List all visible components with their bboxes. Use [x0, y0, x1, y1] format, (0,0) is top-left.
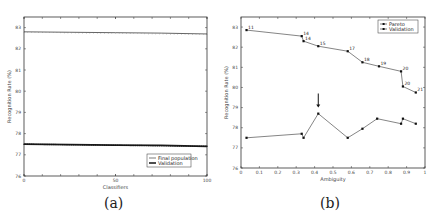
x-tick-label: 50	[113, 178, 119, 183]
caption-a: (a)	[104, 195, 123, 211]
x-tick-label: 0.8	[385, 170, 392, 175]
series-final-population	[24, 32, 208, 35]
y-tick-label: 78	[15, 131, 21, 136]
series-pareto: 11141415171819202021	[245, 25, 423, 94]
data-point	[400, 123, 402, 125]
x-axis-label: Classifiers	[103, 184, 129, 190]
x-tick-label: 0.1	[256, 170, 263, 175]
data-point	[415, 123, 417, 125]
y-tick-label: 79	[15, 110, 21, 115]
point-label: 17	[349, 46, 355, 51]
data-point	[376, 118, 378, 120]
plot-frame	[241, 17, 425, 168]
y-tick-label: 77	[15, 152, 21, 157]
legend-entry: Validation	[158, 160, 183, 166]
x-tick-label: 0.9	[403, 170, 410, 175]
point-label: 21	[417, 87, 423, 92]
data-point	[301, 133, 303, 135]
y-tick-label: 79	[232, 105, 238, 110]
data-point	[302, 137, 304, 139]
point-label: 20	[404, 81, 410, 86]
data-point	[317, 113, 319, 115]
series-validation	[245, 113, 416, 139]
y-tick-label: 78	[232, 125, 238, 130]
point-label: 19	[381, 61, 387, 66]
y-tick-label: 82	[232, 45, 238, 50]
y-tick-label: 80	[232, 85, 238, 90]
point-label: 15	[320, 41, 326, 46]
data-point	[361, 128, 363, 130]
chart-panel-b: 767778798081828300.10.20.30.40.50.60.70.…	[220, 0, 440, 221]
legend: ParetoValidation	[378, 20, 418, 33]
legend: Final populationValidation	[147, 154, 198, 167]
point-label: 18	[364, 57, 370, 62]
series-validation	[23, 144, 207, 148]
x-tick-label: 0.3	[293, 170, 300, 175]
x-tick-label: 0.4	[311, 170, 318, 175]
y-tick-label: 76	[232, 166, 238, 171]
x-tick-label: 1	[424, 170, 427, 175]
chart-b-plot: 767778798081828300.10.20.30.40.50.60.70.…	[220, 0, 440, 195]
x-tick-label: 0.7	[366, 170, 373, 175]
y-tick-label: 81	[15, 68, 21, 73]
x-axis-label: Ambiguity	[320, 176, 346, 183]
point-label: 11	[248, 25, 254, 30]
x-tick-label: 0	[240, 170, 243, 175]
point-label: 14	[305, 36, 311, 41]
x-tick-label: 0.6	[348, 170, 355, 175]
point-label: 20	[403, 66, 409, 71]
legend-entry: Validation	[389, 26, 414, 32]
x-tick-label: 0.2	[274, 170, 281, 175]
y-tick-label: 83	[232, 25, 238, 30]
y-tick-label: 82	[15, 46, 21, 51]
caption-b: (b)	[320, 195, 340, 211]
y-tick-label: 76	[15, 174, 21, 179]
data-point	[347, 137, 349, 139]
y-tick-label: 77	[232, 145, 238, 150]
y-tick-label: 83	[15, 25, 21, 30]
x-tick-label: 100	[203, 178, 212, 183]
y-axis-label: Recognition Rate (%)	[6, 70, 13, 123]
x-tick-label: 0.5	[329, 170, 336, 175]
arrow-head-icon	[316, 105, 320, 108]
plot-frame	[24, 17, 207, 176]
chart-panel-a: 7677787980818283050100ClassifiersRecogni…	[0, 0, 220, 221]
y-axis-label: Recognition Rate (%)	[223, 66, 230, 119]
chart-a-plot: 7677787980818283050100ClassifiersRecogni…	[0, 0, 220, 195]
x-tick-label: 0	[23, 178, 26, 183]
y-tick-label: 80	[15, 89, 21, 94]
y-tick-label: 81	[232, 65, 238, 70]
data-point	[245, 137, 247, 139]
data-point	[402, 118, 404, 120]
